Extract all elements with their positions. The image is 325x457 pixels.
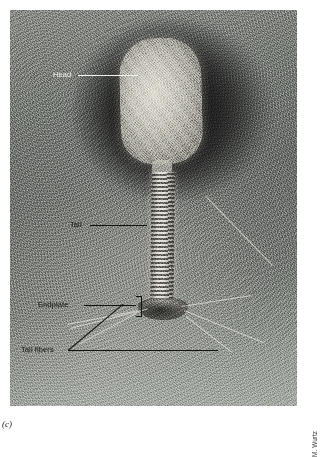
electron-micrograph-image xyxy=(10,10,297,406)
head-grain-texture xyxy=(118,37,203,165)
photo-credit: M. Wurtz xyxy=(311,431,318,457)
phage-tail-sheath xyxy=(150,172,174,306)
tail-shading xyxy=(150,172,174,306)
phage-head-capsid xyxy=(118,37,203,165)
figure-letter: (c) xyxy=(2,419,12,429)
endplate-core-shadow xyxy=(142,302,184,318)
